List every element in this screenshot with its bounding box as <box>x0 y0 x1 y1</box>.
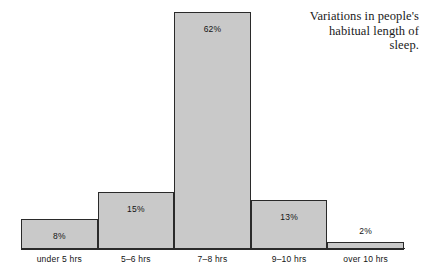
bar-3 <box>251 200 328 250</box>
bar-value-label-2: 62% <box>174 24 251 34</box>
plot-area: 8%15%62%13%2% <box>21 10 404 250</box>
bar-2 <box>174 12 251 250</box>
bar-value-label-0: 8% <box>21 231 98 241</box>
bar-value-label-3: 13% <box>251 212 328 222</box>
x-tick-label-4: over 10 hrs <box>327 254 404 264</box>
bar-value-label-1: 15% <box>98 204 175 214</box>
x-tick-label-0: under 5 hrs <box>21 254 98 264</box>
x-axis-labels: under 5 hrs5–6 hrs7–8 hrs9–10 hrsover 10… <box>21 254 404 270</box>
x-axis-line <box>21 248 405 249</box>
bar-1 <box>98 192 175 250</box>
x-tick-label-3: 9–10 hrs <box>251 254 328 264</box>
x-tick-label-2: 7–8 hrs <box>174 254 251 264</box>
x-tick-label-1: 5–6 hrs <box>98 254 175 264</box>
chart-figure: Variations in people's habitual length o… <box>0 0 435 278</box>
bar-value-label-4: 2% <box>327 226 404 236</box>
